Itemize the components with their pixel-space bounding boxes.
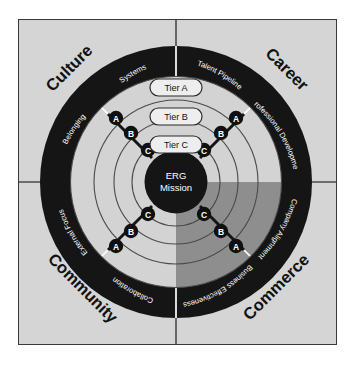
erg-framework-diagram: ERG Mission A B C [0,0,353,366]
tier-b-label: Tier B [164,112,188,122]
node-label-c: C [201,210,207,220]
node-culture-a[interactable]: A [109,111,123,125]
node-label-b: B [218,227,224,237]
node-label-b: B [128,227,134,237]
node-commerce-b[interactable]: B [214,224,228,238]
node-label-c: C [145,210,151,220]
erg-mission-line2: Mission [160,182,192,193]
node-community-b[interactable]: B [124,224,138,238]
tier-pill-a[interactable]: Tier A [150,79,202,96]
node-career-a[interactable]: A [229,111,243,125]
node-commerce-a[interactable]: A [229,239,243,253]
tier-a-label: Tier A [164,83,187,93]
node-label-a: A [113,114,119,124]
tier-pill-b[interactable]: Tier B [150,108,202,125]
tier-c-label: Tier C [164,140,189,150]
node-career-b[interactable]: B [214,126,228,140]
tier-pill-c[interactable]: Tier C [150,136,202,153]
node-community-a[interactable]: A [109,239,123,253]
node-label-a: A [233,114,239,124]
node-label-b: B [128,129,134,139]
node-commerce-c[interactable]: C [197,207,211,221]
diagram-canvas: ERG Mission A B C [0,0,353,366]
node-culture-b[interactable]: B [124,126,138,140]
node-label-a: A [113,242,119,252]
node-community-c[interactable]: C [141,207,155,221]
node-label-a: A [233,242,239,252]
node-label-b: B [218,129,224,139]
erg-mission-line1: ERG [166,170,187,181]
